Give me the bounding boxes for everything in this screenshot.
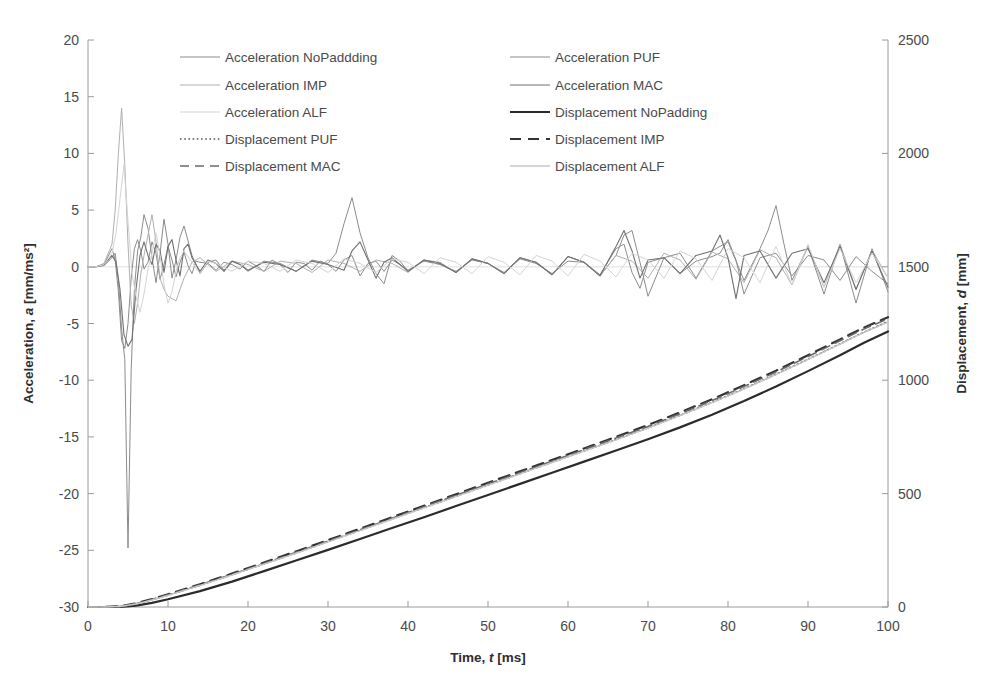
x-axis-tick-label: 70 (640, 618, 656, 634)
x-axis-tick-label: 60 (560, 618, 576, 634)
legend-label: Acceleration PUF (555, 50, 660, 65)
y-axis-left-title: Acceleration, a [mm/ms²] (21, 243, 36, 404)
legend-label: Displacement PUF (225, 132, 338, 147)
y-axis-right-tick-label: 2500 (898, 32, 929, 48)
y-axis-right-tick-label: 1000 (898, 372, 929, 388)
legend-label: Acceleration MAC (555, 78, 663, 93)
x-axis-tick-label: 100 (876, 618, 900, 634)
y-axis-left-tick-label: -5 (67, 316, 80, 332)
y-axis-left-tick-label: -30 (59, 599, 79, 615)
legend-label: Acceleration ALF (225, 105, 327, 120)
x-axis-tick-label: 20 (240, 618, 256, 634)
x-axis-tick-label: 30 (320, 618, 336, 634)
legend-label: Acceleration IMP (225, 78, 327, 93)
legend-label: Displacement NoPadding (555, 105, 707, 120)
y-axis-right-tick-label: 2000 (898, 145, 929, 161)
legend-label: Displacement IMP (555, 132, 665, 147)
y-axis-left-tick-label: -10 (59, 372, 79, 388)
y-axis-right-tick-label: 500 (898, 486, 922, 502)
y-axis-left-tick-label: -25 (59, 542, 79, 558)
x-axis-tick-label: 40 (400, 618, 416, 634)
x-axis-tick-label: 0 (84, 618, 92, 634)
chart-container: 20151050-5-10-15-20-25-30250020001500100… (0, 0, 994, 691)
y-axis-left-tick-label: 0 (71, 259, 79, 275)
legend-label: Displacement MAC (225, 159, 341, 174)
y-axis-left-tick-label: 10 (63, 145, 79, 161)
y-axis-right-tick-label: 0 (898, 599, 906, 615)
y-axis-right-tick-label: 1500 (898, 259, 929, 275)
x-axis-tick-label: 10 (160, 618, 176, 634)
y-axis-left-tick-label: -15 (59, 429, 79, 445)
y-axis-left-tick-label: 5 (71, 202, 79, 218)
x-axis-tick-label: 80 (720, 618, 736, 634)
x-axis-tick-label: 50 (480, 618, 496, 634)
y-axis-left-tick-label: -20 (59, 486, 79, 502)
acceleration-displacement-chart: 20151050-5-10-15-20-25-30250020001500100… (0, 0, 994, 691)
y-axis-right-title: Displacement, d [mm] (954, 253, 969, 393)
y-axis-left-tick-label: 15 (63, 89, 79, 105)
legend-label: Acceleration NoPaddding (225, 50, 377, 65)
chart-background (0, 0, 994, 691)
x-axis-title: Time, t [ms] (450, 650, 526, 665)
y-axis-left-tick-label: 20 (63, 32, 79, 48)
legend-label: Displacement ALF (555, 159, 665, 174)
x-axis-tick-label: 90 (800, 618, 816, 634)
